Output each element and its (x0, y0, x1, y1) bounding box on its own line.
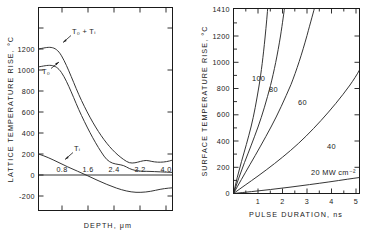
left-ytick-label-0: -200 (19, 192, 35, 201)
right-ytick-label-0: 0 (226, 189, 230, 198)
right-x-ticks-top (246, 9, 356, 14)
right-xtick-label-0: 1 (256, 197, 260, 206)
figure-svg: -200 0 200 400 600 800 1000 1200 (0, 0, 370, 234)
left-ytick-label-5: 800 (22, 87, 35, 96)
right-ytick-label-1: 200 (217, 163, 230, 172)
right-xtick-label-3: 4 (329, 197, 333, 206)
right-y-ticks-right (355, 36, 360, 167)
right-ytick-label-2: 400 (217, 137, 230, 146)
right-y-axis-label: SURFACE TEMPERATURE RISE, °C (200, 25, 209, 176)
figure-container: -200 0 200 400 600 800 1000 1200 (0, 0, 370, 234)
right-annotation-40: 40 (327, 142, 336, 151)
right-x-ticks-bottom (246, 189, 356, 194)
curve-100 (234, 4, 269, 194)
right-xtick-label-2: 3 (305, 197, 309, 206)
right-y-ticks (234, 23, 239, 194)
right-annotation-60: 60 (298, 98, 307, 107)
left-ytick-label-4: 600 (22, 108, 35, 117)
right-ytick-label-6: 1200 (212, 32, 230, 41)
left-ytick-label-3: 400 (22, 129, 35, 138)
left-ytick-label-1: 0 (31, 171, 35, 180)
right-plot-frame (234, 9, 360, 194)
right-ytick-label-5: 1000 (212, 58, 230, 67)
left-ytick-label-7: 1200 (17, 45, 35, 54)
left-x-ticks-bottom (62, 206, 166, 211)
right-ytick-label-3: 600 (217, 110, 230, 119)
left-y-ticks (39, 28, 44, 196)
curve-t0-plus-ti (39, 47, 173, 163)
left-x-ticks-top (62, 8, 166, 13)
curve-80 (234, 4, 286, 194)
right-panel: 0 200 400 600 800 1000 1200 1410 (200, 4, 360, 219)
left-xtick-label-2: 2.4 (108, 165, 119, 174)
left-x-axis-label: DEPTH, μm (84, 221, 132, 230)
left-ytick-label-6: 1000 (17, 66, 35, 75)
left-xtick-label-3: 3.2 (134, 165, 145, 174)
right-ytick-label-4: 800 (217, 84, 230, 93)
left-annotation-t0-plus-ti: T₀ + Tᵢ (72, 27, 96, 36)
right-x-axis-label: PULSE DURATION, ns (249, 210, 343, 219)
right-annotation-20: 20 MW cm⁻² (311, 168, 356, 177)
right-ytick-label-7: 1410 (212, 5, 230, 14)
left-annotation-ti: Tᵢ (74, 144, 80, 153)
left-plot-frame (39, 8, 173, 211)
left-xtick-label-1: 1.6 (82, 165, 93, 174)
right-annotation-100: 100 (252, 74, 265, 83)
left-ytick-label-2: 200 (22, 150, 35, 159)
right-annotation-80: 80 (269, 85, 278, 94)
right-xtick-label-4: 5 (354, 197, 358, 206)
left-y-axis-label: LATTICE TEMPERATURE RISE, °C (6, 36, 15, 182)
left-annotation-t0: T₀ (42, 67, 50, 76)
right-xtick-label-1: 2 (280, 197, 284, 206)
curve-t0 (39, 65, 173, 172)
left-panel: -200 0 200 400 600 800 1000 1200 (6, 8, 173, 231)
